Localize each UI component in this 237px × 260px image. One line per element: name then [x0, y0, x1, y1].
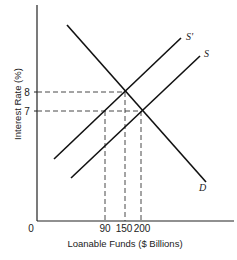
- d-label: D: [198, 182, 207, 193]
- x-origin-label: 0: [28, 223, 34, 234]
- s-label: S: [204, 48, 209, 59]
- s-prime-label: S': [186, 31, 194, 42]
- y-tick-label-8: 8: [24, 87, 30, 98]
- demand-curve-d: [67, 25, 206, 182]
- x-tick-label-150: 150: [116, 223, 133, 234]
- chart-canvas: S' S D 8 7 0 90 150 200 Loanable Funds (…: [0, 0, 237, 260]
- loanable-funds-chart: S' S D 8 7 0 90 150 200 Loanable Funds (…: [0, 0, 237, 260]
- x-axis-title: Loanable Funds ($ Billions): [67, 238, 182, 249]
- y-tick-label-7: 7: [24, 106, 30, 117]
- supply-curve-s: [71, 56, 200, 178]
- x-tick-label-200: 200: [134, 223, 151, 234]
- reference-lines: [37, 92, 141, 221]
- y-axis-title: Interest Rate (%): [12, 68, 23, 140]
- x-tick-label-90: 90: [99, 223, 111, 234]
- supply-curve-s-prime: [54, 38, 181, 159]
